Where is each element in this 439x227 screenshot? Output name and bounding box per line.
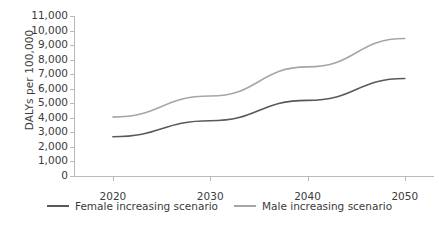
y-tick-label: 5,000 (38, 96, 68, 108)
series-line (113, 39, 405, 118)
y-tick-label: 6,000 (38, 82, 68, 94)
y-tick-label: 3,000 (38, 125, 68, 137)
legend-line-icon (234, 205, 256, 207)
y-tick-label: 1,000 (38, 154, 68, 166)
y-tick-label: 9,000 (38, 38, 68, 50)
y-tick-label: 10,000 (31, 24, 68, 36)
y-tick-label: 0 (61, 169, 68, 181)
series-line (113, 79, 405, 137)
series-lines (74, 16, 434, 176)
x-axis-line (74, 176, 434, 177)
chart-figure: DALYs per 100,000 01,0002,0003,0004,0005… (0, 0, 439, 227)
y-tick-label: 2,000 (38, 140, 68, 152)
legend-item[interactable]: Male increasing scenario (234, 200, 392, 212)
y-tick-mark (70, 176, 74, 177)
x-tick-mark (210, 176, 211, 181)
chart-legend: Female increasing scenarioMale increasin… (0, 200, 439, 212)
y-tick-label: 8,000 (38, 53, 68, 65)
plot-area: 01,0002,0003,0004,0005,0006,0007,0008,00… (74, 16, 434, 176)
legend-label: Male increasing scenario (262, 200, 392, 212)
x-tick-mark (113, 176, 114, 181)
x-tick-mark (405, 176, 406, 181)
y-tick-label: 7,000 (38, 67, 68, 79)
x-tick-mark (308, 176, 309, 181)
legend-line-icon (47, 205, 69, 207)
y-tick-label: 11,000 (31, 9, 68, 21)
y-tick-label: 4,000 (38, 111, 68, 123)
legend-item[interactable]: Female increasing scenario (47, 200, 218, 212)
legend-label: Female increasing scenario (75, 200, 218, 212)
